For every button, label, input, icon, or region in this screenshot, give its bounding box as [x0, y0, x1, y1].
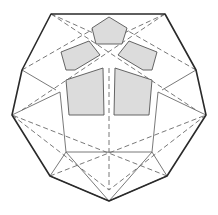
visible-edge — [152, 92, 158, 152]
hidden-edge — [109, 115, 206, 190]
upper-right-pentagon — [118, 41, 157, 70]
lower-right-pentagon — [114, 68, 152, 115]
visible-edge — [22, 70, 56, 90]
polyhedron-figure — [0, 0, 218, 215]
visible-edge — [60, 92, 66, 152]
visible-edge — [158, 92, 206, 115]
visible-edge — [162, 70, 196, 90]
hidden-edge — [12, 115, 167, 176]
diagram-canvas — [0, 0, 218, 215]
lower-left-pentagon — [66, 68, 104, 115]
visible-edge — [109, 152, 152, 201]
visible-edge — [66, 152, 109, 201]
hidden-edge — [50, 115, 206, 176]
hidden-edge — [12, 115, 109, 190]
visible-edge — [152, 152, 167, 176]
visible-edge — [12, 92, 60, 115]
upper-left-pentagon — [61, 41, 100, 70]
top-pentagon — [92, 17, 127, 44]
